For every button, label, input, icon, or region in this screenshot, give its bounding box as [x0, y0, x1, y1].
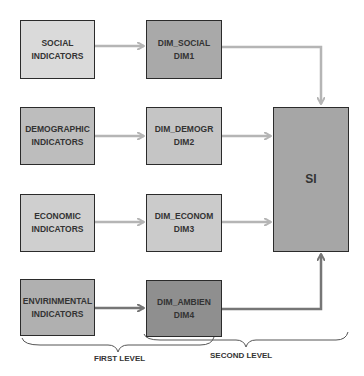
- box-label-line1: DIM_DEMOGR: [155, 123, 214, 136]
- demographic-indicators-box: DEMOGRAPHIC INDICATORS: [20, 107, 95, 165]
- first-level-brace: [22, 337, 214, 352]
- box-label-line1: DIM_SOCIAL: [158, 37, 210, 50]
- environmental-indicators-box: ENVIRINMENTAL INDICATORS: [20, 279, 95, 336]
- si-label: SI: [305, 173, 316, 186]
- box-label-line2: DIM1: [174, 50, 194, 63]
- dim-ambien-box: DIM_AMBIEN DIM4: [146, 280, 222, 337]
- box-label-line2: DIM2: [174, 136, 194, 149]
- first-level-label: FIRST LEVEL: [94, 354, 145, 363]
- box-label-line2: DIM4: [174, 309, 194, 322]
- box-label-line2: DIM3: [174, 223, 194, 236]
- box-label-line2: INDICATORS: [31, 223, 83, 236]
- box-label-line2: INDICATORS: [31, 50, 83, 63]
- box-label-line1: DIM_ECONOM: [155, 210, 214, 223]
- box-label-line1: DEMOGRAPHIC: [25, 123, 90, 136]
- dim-demogr-box: DIM_DEMOGR DIM2: [146, 107, 222, 165]
- box-label-line1: DIM_AMBIEN: [157, 296, 211, 309]
- arrow-dim1-to-si: [222, 47, 321, 104]
- si-box: SI: [273, 107, 349, 252]
- dim-social-box: DIM_SOCIAL DIM1: [146, 20, 222, 79]
- box-label-line1: ENVIRINMENTAL: [23, 295, 92, 308]
- social-indicators-box: SOCIAL INDICATORS: [20, 20, 95, 79]
- dim-econom-box: DIM_ECONOM DIM3: [146, 194, 222, 252]
- box-label-line1: ECONOMIC: [34, 210, 81, 223]
- box-label-line1: SOCIAL: [41, 37, 73, 50]
- box-label-line2: INDICATORS: [31, 308, 83, 321]
- economic-indicators-box: ECONOMIC INDICATORS: [20, 194, 95, 252]
- box-label-line2: INDICATORS: [31, 136, 83, 149]
- arrow-dim4-to-si: [222, 254, 321, 309]
- second-level-label: SECOND LEVEL: [210, 351, 272, 360]
